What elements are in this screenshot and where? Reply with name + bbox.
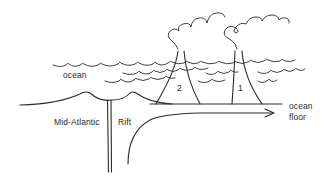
rift-diagram (0, 0, 331, 184)
volcano-1-number: 1 (238, 84, 243, 93)
wave-row-2 (123, 67, 305, 74)
plume-2 (168, 13, 225, 49)
wave-row-3 (105, 76, 277, 82)
mid-atlantic-label: Mid-Atlantic (54, 118, 100, 127)
volcano-2-number: 2 (177, 84, 182, 93)
ocean-label: ocean (63, 71, 87, 80)
wave-row-1 (53, 59, 295, 66)
rift-label: Rift (118, 118, 131, 127)
ocean-floor-label-line1: ocean (289, 102, 313, 111)
volcano-1 (224, 15, 289, 104)
spreading-arrow (128, 109, 274, 164)
plume-1 (224, 15, 289, 49)
mid-ocean-ridge (20, 92, 172, 105)
rift-channel (108, 100, 112, 172)
ocean-floor-label-line2: floor (289, 113, 306, 122)
volcano-2 (156, 13, 225, 104)
ocean-waves (53, 59, 305, 82)
